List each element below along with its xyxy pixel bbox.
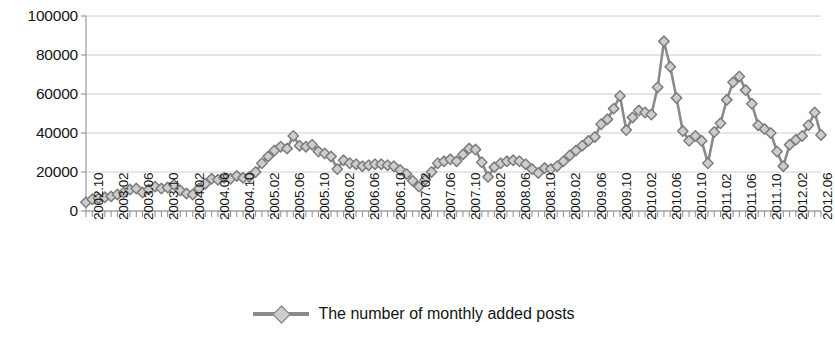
legend-swatch — [253, 307, 309, 321]
data-point-marker — [621, 125, 631, 135]
x-tick-label: 2008.02 — [493, 173, 508, 220]
x-tick-label: 2008.10 — [543, 173, 558, 220]
data-point-marker — [810, 107, 820, 117]
x-tick-label: 2007.10 — [468, 173, 483, 220]
x-tick-label: 2005.10 — [317, 173, 332, 220]
data-point-marker — [652, 82, 662, 92]
data-point-marker — [477, 157, 487, 167]
y-tick-label: 60000 — [36, 85, 78, 103]
data-point-marker — [608, 103, 618, 113]
x-tick-label: 2007.02 — [418, 173, 433, 220]
data-point-marker — [659, 36, 669, 46]
x-tick-label: 2010.10 — [694, 173, 709, 220]
x-tick-label: 2004.02 — [192, 173, 207, 220]
y-tick-label: 0 — [70, 202, 78, 220]
x-tick-label: 2003.10 — [166, 173, 181, 220]
chart-legend: The number of monthly added posts — [0, 305, 828, 323]
legend-label: The number of monthly added posts — [318, 305, 574, 323]
x-tick-label: 2011.06 — [744, 174, 759, 220]
x-tick-label: 2003.06 — [141, 173, 156, 220]
data-point-marker — [778, 161, 788, 171]
data-point-marker — [722, 95, 732, 105]
x-tick-label: 2010.06 — [669, 173, 684, 220]
x-tick-label: 2009.02 — [568, 173, 583, 220]
x-tick-label: 2009.06 — [594, 173, 609, 220]
x-tick-label: 2002.10 — [91, 173, 106, 220]
x-tick-label: 2011.10 — [769, 174, 784, 220]
y-tick-label: 40000 — [36, 124, 78, 142]
data-point-marker — [772, 146, 782, 156]
data-point-marker — [615, 91, 625, 101]
data-point-marker — [703, 158, 713, 168]
x-tick-label: 2003.02 — [116, 173, 131, 220]
x-tick-label: 2007.06 — [443, 173, 458, 220]
x-tick-label: 2004.10 — [242, 173, 257, 220]
x-tick-label: 2005.02 — [267, 173, 282, 220]
x-tick-label: 2006.06 — [367, 173, 382, 220]
y-tick-label: 100000 — [27, 7, 78, 25]
x-tick-label: 2012.02 — [795, 173, 810, 220]
y-tick-label: 20000 — [36, 163, 78, 181]
diamond-marker-icon — [273, 305, 291, 323]
x-tick-label: 2009.10 — [619, 173, 634, 220]
data-point-marker — [803, 120, 813, 130]
x-tick-label: 2011.02 — [719, 174, 734, 220]
y-tick-label: 80000 — [36, 46, 78, 64]
x-tick-label: 2010.02 — [644, 173, 659, 220]
x-tick-label: 2004.06 — [217, 173, 232, 220]
data-point-marker — [665, 62, 675, 72]
x-tick-label: 2012.06 — [820, 173, 835, 220]
x-tick-label: 2005.06 — [292, 173, 307, 220]
x-tick-label: 2006.10 — [393, 173, 408, 220]
data-point-marker — [816, 130, 826, 140]
x-tick-label: 2006.02 — [342, 173, 357, 220]
x-tick-label: 2008.06 — [518, 173, 533, 220]
data-point-marker — [747, 99, 757, 109]
